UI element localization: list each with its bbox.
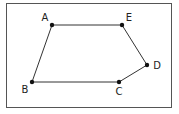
vertex-label-d: D <box>153 61 161 71</box>
polygon-canvas <box>0 0 179 114</box>
pentagon-diagram: A E D C B <box>0 0 179 114</box>
vertex-d-dot <box>145 63 149 67</box>
vertex-e-dot <box>120 23 124 27</box>
vertex-label-a: A <box>42 13 49 23</box>
edge-b-a <box>32 25 52 82</box>
vertex-c-dot <box>117 80 121 84</box>
vertex-label-e: E <box>126 13 132 23</box>
vertex-label-c: C <box>116 87 123 97</box>
vertex-b-dot <box>30 80 34 84</box>
edge-d-c <box>119 65 147 82</box>
vertex-a-dot <box>50 23 54 27</box>
edge-e-d <box>122 25 147 65</box>
vertex-label-b: B <box>22 85 29 95</box>
polygon-edges <box>32 25 147 82</box>
